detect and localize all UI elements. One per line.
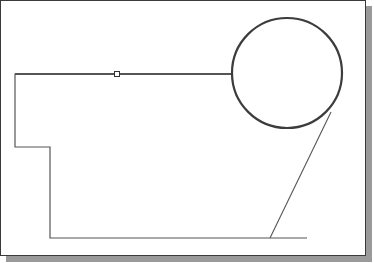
tangent-line[interactable] [270, 112, 331, 238]
sketch-outline-polyline[interactable] [15, 74, 307, 238]
grip-point-icon[interactable] [115, 72, 120, 77]
sketch-geometry [0, 0, 374, 263]
drawing-canvas [0, 0, 374, 263]
sketch-circle[interactable] [232, 18, 342, 128]
